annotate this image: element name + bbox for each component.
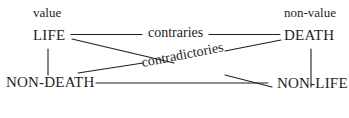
value-heading: value xyxy=(33,6,61,19)
life-term: LIFE xyxy=(33,28,65,43)
non-death-term: NON-DEATH xyxy=(6,75,94,90)
diagonal-life-nonlife-lower xyxy=(225,75,272,87)
contraries-label: contraries xyxy=(148,26,203,40)
diagonal-nondeath-death-upper xyxy=(225,40,281,51)
non-value-heading: non-value xyxy=(284,6,336,19)
non-life-term: NON-LIFE xyxy=(277,76,348,91)
death-term: DEATH xyxy=(284,28,334,43)
semiotic-square-diagram: value non-value LIFE DEATH contraries co… xyxy=(0,0,349,118)
diagonal-nondeath-death-lower xyxy=(78,63,143,73)
